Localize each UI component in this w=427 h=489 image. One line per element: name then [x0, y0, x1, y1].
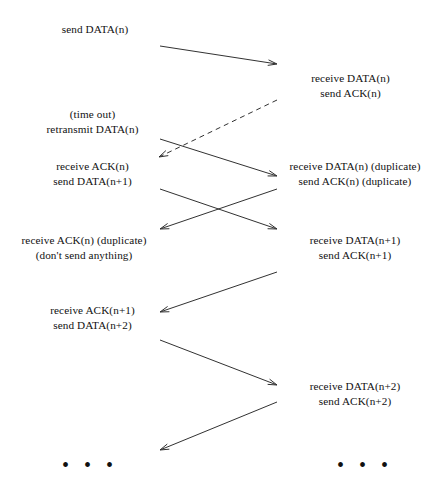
- arrow-shaft: [160, 189, 276, 229]
- arrow-head-icon: [268, 60, 277, 65]
- event-label-sender-timeout-retransmit: (time out)retransmit DATA(n): [25, 107, 160, 136]
- event-label-receiver-receive-data-n-plus-2: receive DATA(n+2)send ACK(n+2): [283, 379, 427, 408]
- message-arrow-ack-n-plus-1: [160, 272, 277, 312]
- event-label-sender-receive-ack-n-plus-1: receive ACK(n+1)send DATA(n+2): [25, 303, 160, 332]
- message-arrow-ack-n-duplicate: [160, 189, 277, 229]
- message-arrow-data-n-plus-1: [160, 189, 277, 229]
- event-label-line: send DATA(n+1): [25, 174, 160, 189]
- protocol-timing-diagram: send DATA(n)receive DATA(n)send ACK(n)(t…: [0, 0, 427, 489]
- event-label-line: receive ACK(n+1): [25, 303, 160, 318]
- event-label-line: receive DATA(n) (duplicate): [283, 159, 427, 174]
- message-arrow-data-n-plus-2: [160, 340, 277, 385]
- message-arrow-ack-n-lost: [159, 100, 277, 157]
- message-arrow-ack-n-plus-2: [160, 402, 277, 450]
- event-label-line: receive ACK(n) (duplicate): [8, 233, 160, 248]
- event-label-line: send ACK(n+1): [283, 248, 427, 263]
- arrow-head-icon: [268, 379, 277, 385]
- event-label-line: send ACK(n+2): [283, 394, 427, 409]
- message-arrow-retransmit-data-n: [160, 139, 277, 176]
- event-label-receiver-receive-data-n-duplicate: receive DATA(n) (duplicate)send ACK(n) (…: [283, 159, 427, 188]
- message-arrow-data-n: [160, 46, 277, 65]
- receiver-continuation-ellipsis: • • •: [337, 455, 393, 475]
- event-label-line: send DATA(n): [30, 22, 160, 37]
- event-label-line: receive DATA(n+1): [283, 233, 427, 248]
- arrow-head-icon: [160, 224, 169, 229]
- event-label-line: receive DATA(n): [283, 71, 418, 86]
- arrow-head-icon: [160, 444, 169, 450]
- event-label-line: send DATA(n+2): [25, 318, 160, 333]
- event-label-receiver-receive-data-n-plus-1: receive DATA(n+1)send ACK(n+1): [283, 233, 427, 262]
- arrow-head-icon: [160, 307, 169, 312]
- arrow-head-icon: [268, 224, 277, 229]
- event-label-sender-send-data-n: send DATA(n): [30, 22, 160, 37]
- event-label-line: receive DATA(n+2): [283, 379, 427, 394]
- event-label-line: (time out): [25, 107, 160, 122]
- arrow-shaft: [160, 340, 276, 384]
- event-label-sender-receive-ack-n-duplicate: receive ACK(n) (duplicate)(don't send an…: [8, 233, 160, 262]
- arrow-shaft: [161, 272, 277, 312]
- arrow-shaft: [161, 189, 277, 229]
- event-label-line: (don't send anything): [8, 248, 160, 263]
- arrow-head-icon: [268, 171, 277, 176]
- event-label-sender-receive-ack-n: receive ACK(n)send DATA(n+1): [25, 159, 160, 188]
- event-label-line: send ACK(n) (duplicate): [283, 174, 427, 189]
- arrow-shaft: [161, 402, 277, 449]
- event-label-line: retransmit DATA(n): [25, 122, 160, 137]
- arrow-shaft: [160, 100, 277, 156]
- event-label-line: send ACK(n): [283, 86, 418, 101]
- arrow-shaft: [160, 139, 276, 176]
- event-label-line: receive ACK(n): [25, 159, 160, 174]
- arrow-head-icon: [159, 151, 168, 157]
- event-label-receiver-receive-data-n: receive DATA(n)send ACK(n): [283, 71, 418, 100]
- arrow-shaft: [160, 46, 276, 64]
- sender-continuation-ellipsis: • • •: [62, 455, 118, 475]
